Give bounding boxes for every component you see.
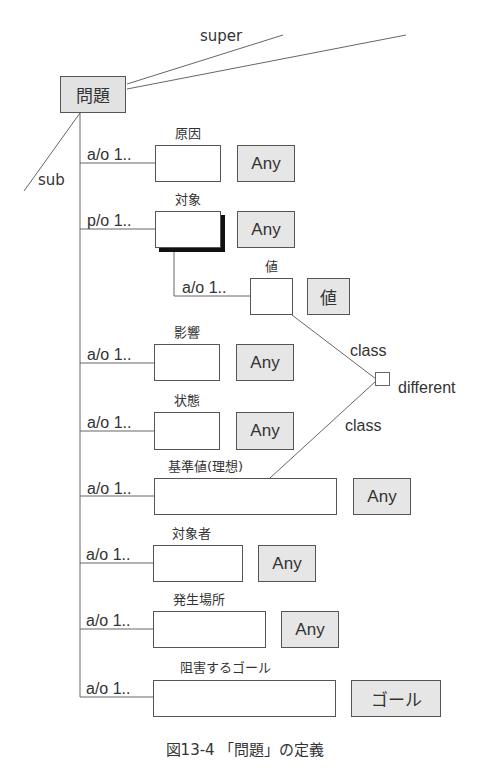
root-frame-mondai[interactable]: 問題	[60, 76, 126, 113]
slot-relation: p/o 1..	[87, 213, 131, 229]
slot-type: Any	[236, 412, 294, 450]
slot-name: 対象者	[172, 527, 211, 540]
slot-box-genin[interactable]	[155, 145, 221, 182]
slot-type: Any	[237, 145, 295, 182]
slot-type: Any	[237, 211, 295, 248]
slot-name: 値	[250, 260, 293, 273]
slot-relation: a/o 1..	[182, 280, 226, 296]
slot-name: 発生場所	[173, 593, 225, 606]
slot-box-eikyo[interactable]	[154, 344, 220, 381]
slot-relation: a/o 1..	[87, 415, 131, 431]
slot-type: Any	[258, 545, 316, 582]
slot-type: Any	[281, 611, 339, 648]
slot-relation: a/o 1..	[87, 481, 131, 497]
slot-type: Any	[353, 478, 411, 515]
slot-relation: a/o 1..	[87, 147, 131, 163]
slot-box-hassei-basho[interactable]	[153, 611, 266, 648]
slot-type: ゴール	[351, 680, 441, 717]
slot-type: 値	[307, 278, 350, 315]
slot-name: 対象	[155, 193, 221, 206]
class-label-1: class	[350, 343, 386, 359]
slot-name: 阻害するゴール	[180, 661, 271, 674]
slot-name: 状態	[154, 394, 220, 407]
slot-relation: a/o 1..	[86, 547, 130, 563]
slot-type: Any	[236, 344, 294, 381]
super-line-2	[127, 35, 406, 89]
root-label: 問題	[76, 82, 110, 107]
slot-relation: a/o 1..	[86, 613, 130, 629]
slot-box-jotai[interactable]	[154, 412, 220, 450]
different-constraint-box[interactable]	[375, 372, 390, 386]
slot-name: 基準値(理想)	[168, 460, 243, 473]
slot-name: 原因	[155, 127, 221, 140]
slot-name: 影響	[154, 326, 220, 339]
different-label: different	[398, 380, 456, 396]
slot-box-atai[interactable]	[250, 278, 293, 315]
slot-box-kijunchi[interactable]	[154, 478, 337, 515]
slot-relation: a/o 1..	[87, 347, 131, 363]
slot-relation: a/o 1..	[86, 681, 130, 697]
figure-caption: 図13-4 「問題」の定義	[0, 738, 490, 759]
super-label: super	[200, 29, 242, 44]
sub-label: sub	[38, 173, 65, 188]
slot-box-taishosha[interactable]	[153, 545, 243, 582]
slot-box-taisho[interactable]	[155, 211, 221, 248]
class-label-2: class	[345, 418, 381, 434]
slot-box-sogai-goal[interactable]	[153, 680, 336, 717]
